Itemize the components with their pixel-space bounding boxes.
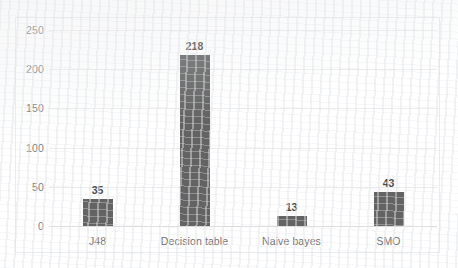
x-axis-category-label: J48 bbox=[89, 235, 106, 247]
bar-group: 35 bbox=[49, 30, 146, 226]
bar-value-label: 43 bbox=[383, 177, 395, 189]
bar-value-label: 35 bbox=[92, 184, 104, 196]
x-axis-category-label: Naive bayes bbox=[262, 235, 321, 247]
bar bbox=[374, 192, 404, 226]
bar-value-label: 13 bbox=[286, 201, 298, 213]
x-axis: J48Decision tableNaive bayesSMO bbox=[49, 226, 437, 254]
bar bbox=[180, 55, 210, 226]
bar-group: 218 bbox=[146, 30, 243, 226]
y-axis-tick-label: 200 bbox=[26, 63, 44, 75]
x-axis-category-label: SMO bbox=[376, 235, 400, 247]
bar-group: 43 bbox=[340, 30, 437, 226]
bar bbox=[83, 199, 113, 226]
y-axis-tick-label: 100 bbox=[26, 142, 44, 154]
bar-chart: 050100150200250 352181343 J48Decision ta… bbox=[15, 17, 440, 253]
y-axis-tick-labels: 050100150200250 bbox=[16, 30, 44, 226]
y-axis-tick-label: 150 bbox=[26, 102, 44, 114]
axis-baseline bbox=[49, 226, 437, 227]
y-axis-tick-label: 0 bbox=[38, 220, 44, 232]
y-axis-tick-label: 250 bbox=[26, 24, 44, 36]
x-axis-category-label: Decision table bbox=[161, 235, 228, 247]
bar bbox=[277, 216, 307, 226]
plot-area: 352181343 bbox=[49, 30, 437, 226]
y-axis-tick-label: 50 bbox=[32, 181, 44, 193]
bar-value-label: 218 bbox=[186, 40, 204, 52]
bar-group: 13 bbox=[243, 30, 340, 226]
